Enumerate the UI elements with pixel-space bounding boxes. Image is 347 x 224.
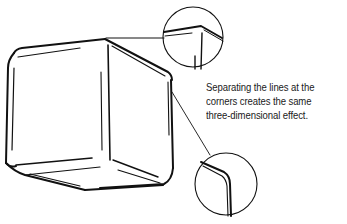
cube-drawing bbox=[6, 39, 173, 190]
caption-text: Separating the lines at the corners crea… bbox=[206, 80, 332, 122]
caption-line: corners creates the same bbox=[206, 94, 332, 108]
top-corner-magnifier bbox=[106, 7, 223, 69]
caption-line: three-dimensional effect. bbox=[206, 108, 332, 122]
caption-line: Separating the lines at the bbox=[206, 80, 332, 94]
